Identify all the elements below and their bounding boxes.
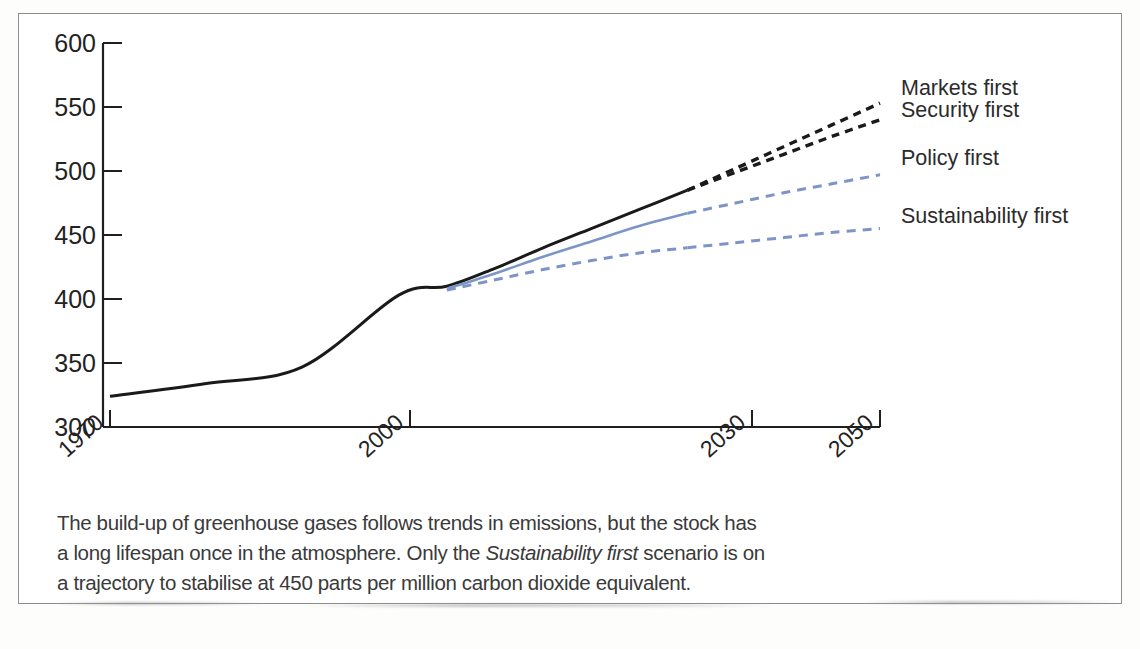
caption-scenario-name: Sustainability first [485,541,638,564]
figure-caption: The build-up of greenhouse gases follows… [57,508,897,598]
scan-artifact-3 [860,601,1120,604]
caption-line-2: a long lifespan once in the atmosphere. … [57,538,897,568]
scan-artifact-2 [300,604,780,607]
series-layer [110,103,880,396]
scan-artifact-1 [55,602,265,605]
y-axis-ticks [103,43,122,363]
caption-line-2-b: scenario is on [638,541,765,564]
legend-item-markets-first: Markets first [901,78,1131,100]
series-line [688,103,881,190]
series-line [110,190,688,396]
legend-item-security-first: Security first [901,100,1131,122]
caption-line-2-a: a long lifespan once in the atmosphere. … [57,541,485,564]
series-line [688,229,881,248]
axis-lines [103,43,880,427]
legend-item-policy-first: Policy first [901,148,1131,170]
caption-line-1: The build-up of greenhouse gases follows… [57,508,897,538]
x-axis-ticks [110,410,880,427]
caption-line-3: a trajectory to stabilise at 450 parts p… [57,568,897,598]
legend-item-sustainability-first: Sustainability first [901,206,1131,228]
legend: Markets first Security first Policy firs… [901,78,1131,228]
series-line [447,248,688,290]
figure-container: 600 550 500 450 400 350 300 1970 2000 20… [0,0,1140,649]
